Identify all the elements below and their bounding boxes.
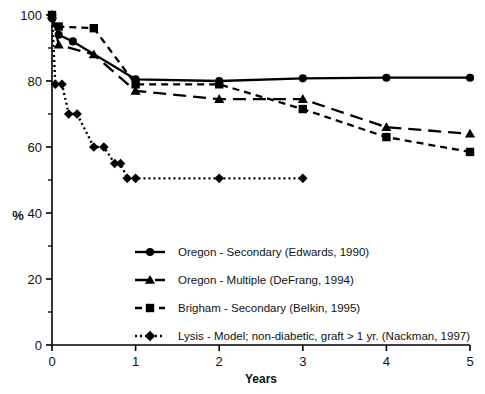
x-axis-tick-label: 2 bbox=[216, 354, 223, 369]
series-line bbox=[52, 15, 303, 178]
y-axis-tick-label: 100 bbox=[20, 8, 42, 23]
x-axis-tick-label: 4 bbox=[383, 354, 390, 369]
chart-container: 020406080100012345Years%Oregon - Seconda… bbox=[0, 0, 485, 394]
chart-legend: Oregon - Secondary (Edwards, 1990)Oregon… bbox=[135, 246, 470, 342]
data-point-marker bbox=[57, 80, 67, 90]
y-axis-title: % bbox=[12, 208, 24, 223]
data-point-marker bbox=[131, 174, 141, 184]
data-point-marker bbox=[215, 80, 223, 88]
series-line bbox=[52, 15, 470, 134]
data-series-circle bbox=[48, 14, 474, 85]
data-series-triangle bbox=[47, 10, 475, 138]
series-line bbox=[52, 15, 470, 152]
data-point-marker bbox=[89, 142, 99, 152]
y-axis-tick-label: 80 bbox=[28, 74, 42, 89]
legend-label: Oregon - Multiple (DeFrang, 1994) bbox=[178, 274, 354, 286]
data-point-marker bbox=[122, 174, 132, 184]
data-point-marker bbox=[465, 129, 475, 138]
legend-marker-diamond bbox=[145, 331, 156, 342]
survival-curve-chart: 020406080100012345Years%Oregon - Seconda… bbox=[0, 0, 485, 394]
data-point-marker bbox=[299, 105, 307, 113]
x-axis-tick-label: 1 bbox=[132, 354, 139, 369]
data-point-marker bbox=[54, 22, 62, 30]
legend-marker-circle bbox=[146, 248, 154, 256]
data-point-marker bbox=[64, 109, 74, 119]
y-axis-tick-label: 40 bbox=[28, 206, 42, 221]
y-axis-tick-label: 20 bbox=[28, 272, 42, 287]
data-point-marker bbox=[298, 174, 308, 184]
data-series-diamond bbox=[47, 10, 307, 183]
legend-label: Oregon - Secondary (Edwards, 1990) bbox=[178, 246, 369, 258]
x-axis-tick-label: 0 bbox=[48, 354, 55, 369]
data-point-marker bbox=[131, 80, 139, 88]
legend-marker-square bbox=[146, 304, 154, 312]
legend-label: Brigham - Secondary (Belkin, 1995) bbox=[178, 302, 360, 314]
y-axis-tick-label: 60 bbox=[28, 140, 42, 155]
data-point-marker bbox=[214, 174, 224, 184]
y-axis-tick-label: 0 bbox=[35, 338, 42, 353]
data-point-marker bbox=[382, 133, 390, 141]
data-point-marker bbox=[54, 40, 64, 49]
data-series-square bbox=[48, 11, 474, 156]
data-point-marker bbox=[382, 74, 390, 82]
x-axis-tick-label: 5 bbox=[466, 354, 473, 369]
x-axis-title: Years bbox=[245, 372, 277, 386]
data-point-marker bbox=[90, 24, 98, 32]
data-point-marker bbox=[299, 74, 307, 82]
x-axis-tick-label: 3 bbox=[299, 354, 306, 369]
data-point-marker bbox=[116, 159, 126, 169]
data-point-marker bbox=[466, 148, 474, 156]
data-point-marker bbox=[69, 37, 77, 45]
legend-label: Lysis - Model; non-diabetic, graft > 1 y… bbox=[178, 330, 470, 342]
data-point-marker bbox=[72, 109, 82, 119]
data-point-marker bbox=[466, 74, 474, 82]
series-line bbox=[52, 18, 470, 81]
